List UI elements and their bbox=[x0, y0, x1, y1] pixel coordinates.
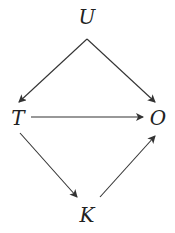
edge-k-o bbox=[100, 136, 155, 197]
edges-layer bbox=[0, 0, 175, 233]
node-u: U bbox=[79, 7, 96, 27]
node-o: O bbox=[150, 108, 166, 128]
node-t: T bbox=[11, 108, 24, 128]
edge-t-k bbox=[20, 133, 77, 197]
edge-u-t bbox=[19, 39, 87, 102]
edge-u-o bbox=[87, 39, 155, 102]
node-k: K bbox=[80, 205, 95, 225]
